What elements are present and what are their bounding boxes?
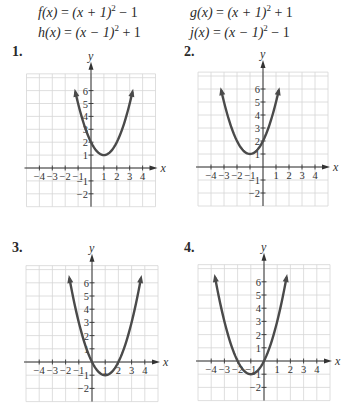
y-tick-label: 3 [84,317,89,328]
x-tick-label: −3 [218,170,229,181]
x-axis-arrow-icon [152,360,160,365]
curve-arrow-icon [67,275,73,283]
curve-arrow-icon [213,274,219,282]
y-tick-label: 4 [255,110,261,121]
graph-1: xy−4−3−2−11234−2−1123456 [25,49,167,207]
x-tick-label: −4 [34,171,46,182]
axes [196,64,326,206]
curve-arrow-icon [283,274,289,282]
x-tick-label: 2 [288,364,293,375]
x-axis-label: x [160,161,167,175]
x-tick-label: 4 [314,364,320,375]
y-axis-label: y [259,47,266,61]
x-tick-label: 2 [286,170,291,181]
y-tick-label: 4 [84,304,90,315]
y-tick-label: 3 [255,123,260,134]
y-axis-label: y [88,241,95,255]
y-tick-label: −2 [250,382,261,393]
y-tick-label: −2 [249,188,260,199]
x-tick-label: 3 [129,365,134,376]
x-tick-label: 2 [114,171,119,182]
x-axis-arrow-icon [322,165,330,170]
y-axis-label: y [87,49,94,63]
y-tick-label: 6 [255,84,260,95]
graph-4: xy−4−3−2−11234−2−1123456 [196,240,341,401]
y-tick-label: 3 [256,316,261,327]
y-axis-arrow-icon [89,62,94,70]
y-axis-arrow-icon [262,253,267,261]
x-tick-label: 1 [101,171,106,182]
x-tick-label: −4 [34,365,46,376]
graph-2: xy−4−3−2−11234−2−1123456 [196,47,339,206]
y-tick-label: −2 [78,383,89,394]
y-tick-label: 1 [83,150,88,161]
x-tick-label: −2 [60,365,71,376]
y-tick-label: 5 [256,290,261,301]
x-tick-label: −2 [231,170,242,181]
y-tick-label: 4 [256,303,262,314]
x-tick-label: 3 [301,364,306,375]
x-axis-label: x [162,355,169,369]
axes [24,258,156,402]
x-axis-arrow-icon [324,359,332,364]
y-tick-label: −2 [77,189,88,200]
x-tick-label: 1 [273,170,278,181]
x-axis-arrow-icon [150,166,158,171]
x-tick-label: −3 [47,365,58,376]
x-tick-label: 3 [299,170,304,181]
x-tick-label: 4 [140,171,146,182]
curve-arrow-icon [137,275,143,283]
x-tick-label: −4 [206,364,218,375]
y-tick-label: 6 [256,277,261,288]
x-tick-label: −3 [219,364,230,375]
y-tick-label: 2 [256,330,261,341]
parabola-graphs: xy−4−3−2−11234−2−1123456xy−4−3−2−11234−2… [0,0,351,408]
y-tick-label: 1 [256,343,261,354]
x-tick-label: 4 [142,365,148,376]
x-axis-label: x [334,354,341,368]
x-axis-label: x [332,160,339,174]
x-tick-label: 3 [127,171,132,182]
x-tick-label: −2 [60,171,71,182]
y-tick-label: −1 [249,175,260,186]
y-tick-label: 5 [84,291,89,302]
y-tick-label: 5 [255,97,260,108]
x-tick-label: 1 [275,364,280,375]
graph-3: xy−4−3−2−11234−2−1123456 [24,241,169,402]
y-tick-label: −1 [77,176,88,187]
x-tick-label: −3 [47,171,58,182]
y-tick-label: 6 [83,86,88,97]
y-tick-label: 6 [84,278,89,289]
y-tick-label: 5 [83,99,88,110]
x-tick-label: 4 [312,170,318,181]
y-tick-label: 2 [83,137,88,148]
y-axis-label: y [260,240,267,254]
y-axis-arrow-icon [90,254,95,262]
x-tick-label: −4 [205,170,217,181]
y-tick-label: −1 [78,370,89,381]
y-axis-arrow-icon [261,60,266,68]
